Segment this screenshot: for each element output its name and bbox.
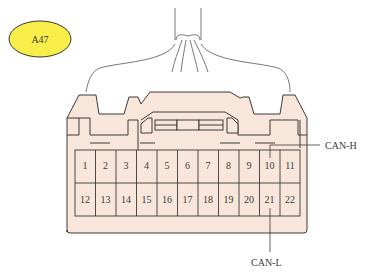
- pin-label: 22: [280, 195, 300, 205]
- can-l-label: CAN-L: [251, 258, 282, 268]
- pin-label: 8: [219, 161, 239, 171]
- pin-label: 15: [137, 195, 157, 205]
- pin-label: 2: [96, 161, 116, 171]
- pin-label: 11: [280, 161, 300, 171]
- pin-label: 3: [116, 161, 136, 171]
- connector-id-label: A47: [24, 34, 56, 45]
- pin-label: 1: [75, 161, 95, 171]
- pin-label: 5: [157, 161, 177, 171]
- pin-label: 4: [137, 161, 157, 171]
- pin-label: 17: [178, 195, 198, 205]
- pin-label: 12: [75, 195, 95, 205]
- pin-label: 6: [178, 161, 198, 171]
- pin-label: 18: [198, 195, 218, 205]
- pin-label-can-h: 10: [260, 161, 280, 171]
- pin-label: 19: [219, 195, 239, 205]
- pin-label: 7: [198, 161, 218, 171]
- pin-label-can-l: 21: [260, 195, 280, 205]
- pin-label: 14: [116, 195, 136, 205]
- pin-label: 9: [239, 161, 259, 171]
- pin-label: 20: [239, 195, 259, 205]
- pin-label: 13: [96, 195, 116, 205]
- can-h-label: CAN-H: [325, 141, 357, 151]
- pin-label: 16: [157, 195, 177, 205]
- wire-harness: [86, 8, 290, 92]
